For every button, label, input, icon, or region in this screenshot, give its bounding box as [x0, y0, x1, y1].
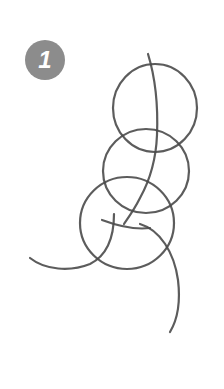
spine-line [124, 54, 157, 224]
circle-sketch-drawing [0, 0, 224, 389]
top-circle [113, 64, 197, 152]
right-tail-curve [140, 224, 179, 332]
bottom-circle [80, 177, 174, 269]
middle-circle [103, 129, 189, 213]
